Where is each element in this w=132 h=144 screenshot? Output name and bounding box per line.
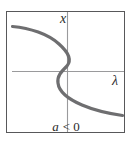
caption-relation: < [63, 119, 70, 134]
figure-caption: a<0 [52, 119, 79, 134]
figure-container: x λ a<0 [0, 0, 132, 144]
vertical-axis-label: x [59, 11, 67, 26]
caption-value: 0 [73, 119, 80, 134]
horizontal-axis-label: λ [111, 73, 118, 88]
caption-parameter: a [52, 119, 59, 134]
bifurcation-diagram-svg: x λ a<0 [0, 0, 132, 144]
